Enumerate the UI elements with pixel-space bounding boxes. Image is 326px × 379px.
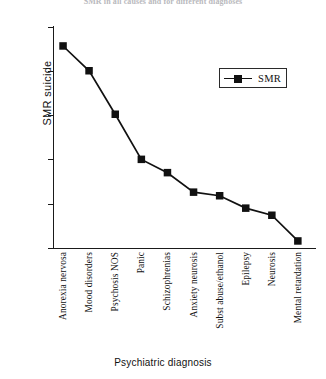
- x-category-label: Subst abuse/ethanol: [213, 252, 227, 352]
- y-axis-title: SMR suicide: [41, 38, 57, 148]
- data-point-marker: [242, 204, 250, 212]
- x-category-label: Anxiety neurosis: [187, 252, 201, 352]
- y-axis-line: [53, 26, 54, 249]
- data-point-marker: [59, 42, 67, 50]
- data-point-marker: [294, 237, 302, 245]
- x-category-label: Epilepsy: [239, 252, 253, 352]
- x-axis-line: [53, 248, 316, 249]
- data-point-marker: [216, 192, 224, 200]
- x-category-label: Neurosis: [265, 252, 279, 352]
- x-category-label: Schizophrenias: [160, 252, 174, 352]
- legend-label-smr: SMR: [258, 73, 281, 84]
- legend-marker-icon: [223, 72, 253, 84]
- data-point-marker: [138, 156, 146, 164]
- cut-off-header: SMR in all causes and for different diag…: [0, 0, 326, 7]
- data-point-marker: [85, 67, 93, 75]
- data-point-marker: [112, 111, 120, 119]
- x-category-label: Panic: [134, 252, 148, 352]
- x-category-label: Anorexia nervosa: [56, 252, 70, 352]
- y-tick: [48, 115, 53, 116]
- y-tick: [48, 204, 53, 205]
- x-category-label: Mood disorders: [82, 252, 96, 352]
- x-category-label: Mental retardation: [291, 252, 305, 352]
- y-tick: [48, 159, 53, 160]
- chart-figure: SMR in all causes and for different diag…: [0, 0, 326, 379]
- x-category-label: Psychosis NOS: [108, 252, 122, 352]
- data-point-marker: [164, 169, 172, 177]
- y-tick: [48, 248, 53, 249]
- y-tick: [48, 27, 53, 28]
- legend: SMR: [219, 68, 287, 88]
- y-tick: [48, 71, 53, 72]
- x-axis-title: Psychiatric diagnosis: [0, 357, 326, 368]
- data-point-marker: [190, 188, 198, 196]
- data-point-marker: [268, 212, 276, 220]
